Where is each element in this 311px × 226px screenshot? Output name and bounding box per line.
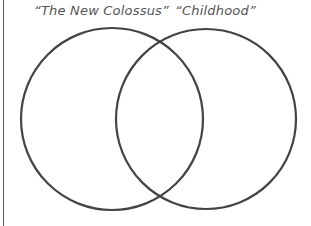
venn-circle-childhood [116, 29, 296, 209]
venn-circle-new-colossus [21, 28, 203, 210]
venn-diagram [0, 0, 311, 226]
